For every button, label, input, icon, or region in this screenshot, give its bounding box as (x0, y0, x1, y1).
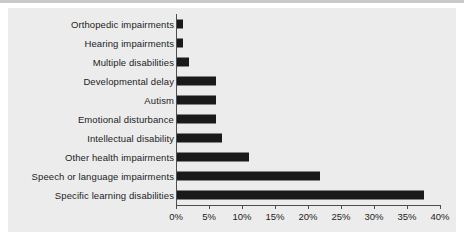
bar-row: Speech or language impairments (8, 167, 456, 186)
tick-mark (308, 205, 309, 209)
category-label: Multiple disabilities (93, 56, 174, 67)
bar-track (176, 167, 456, 186)
bar-row: Orthopedic impairments (8, 14, 456, 33)
category-label: Intellectual disability (87, 133, 174, 144)
tick-mark (275, 205, 276, 209)
category-label: Developmental delay (83, 75, 174, 86)
bar (176, 115, 216, 124)
bar-row: Multiple disabilities (8, 52, 456, 71)
bar-row: Emotional disturbance (8, 109, 456, 128)
bar-row: Specific learning disabilities (8, 186, 456, 205)
tick-label: 0% (169, 211, 183, 222)
tick-mark (407, 205, 408, 209)
category-label: Orthopedic impairments (71, 18, 174, 29)
bar (176, 172, 320, 181)
bar-row: Developmental delay (8, 71, 456, 90)
tick-label: 25% (331, 211, 350, 222)
category-label: Autism (144, 94, 174, 105)
tick-mark (209, 205, 210, 209)
chart-panel: Orthopedic impairmentsHearing impairment… (8, 8, 456, 232)
tick-label: 10% (232, 211, 251, 222)
bar-track (176, 129, 456, 148)
y-axis-line (176, 14, 177, 205)
category-label: Hearing impairments (84, 37, 174, 48)
tick-mark (374, 205, 375, 209)
tick-label: 30% (364, 211, 383, 222)
bar-track (176, 148, 456, 167)
category-label: Other health impairments (65, 152, 174, 163)
tick-label: 40% (430, 211, 449, 222)
bar (176, 191, 424, 200)
bar-track (176, 90, 456, 109)
bar (176, 134, 222, 143)
bar-track (176, 52, 456, 71)
tick-mark (176, 205, 177, 209)
bar-row: Autism (8, 90, 456, 109)
bar (176, 95, 216, 104)
bar-track (176, 71, 456, 90)
category-label: Speech or language impairments (32, 171, 174, 182)
bar-row: Intellectual disability (8, 129, 456, 148)
bar (176, 153, 249, 162)
tick-label: 20% (298, 211, 317, 222)
bar (176, 57, 189, 66)
bar-rows: Orthopedic impairmentsHearing impairment… (8, 14, 456, 205)
bar-chart-plot-area: Orthopedic impairmentsHearing impairment… (8, 8, 456, 232)
tick-label: 5% (202, 211, 216, 222)
x-axis-ticks: 0%5%10%15%20%25%30%35%40% (176, 205, 440, 231)
bar-track (176, 109, 456, 128)
category-label: Emotional disturbance (78, 114, 174, 125)
bar (176, 76, 216, 85)
tick-mark (341, 205, 342, 209)
category-label: Specific learning disabilities (55, 190, 174, 201)
bar-track (176, 186, 456, 205)
tick-mark (242, 205, 243, 209)
tick-label: 35% (397, 211, 416, 222)
tick-label: 15% (265, 211, 284, 222)
tick-mark (440, 205, 441, 209)
top-divider-rule (0, 0, 464, 3)
bar-track (176, 14, 456, 33)
bar-track (176, 33, 456, 52)
bar-row: Other health impairments (8, 148, 456, 167)
bar-row: Hearing impairments (8, 33, 456, 52)
